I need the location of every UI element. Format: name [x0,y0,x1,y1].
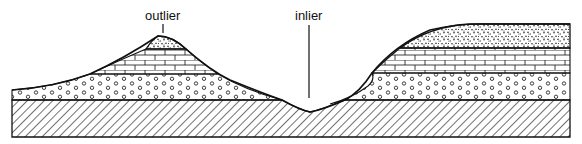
lower-bed-right [330,73,570,104]
outlier-label: outlier [145,8,181,23]
middle-bed-right [372,48,570,73]
upper-bed-outlier [146,36,186,49]
cross-section-diagram: outlier inlier [0,0,582,144]
lower-bed-left [12,74,282,100]
middle-bed-outlier [90,49,218,74]
inlier-label: inlier [295,8,323,23]
upper-bed-right [400,24,570,48]
